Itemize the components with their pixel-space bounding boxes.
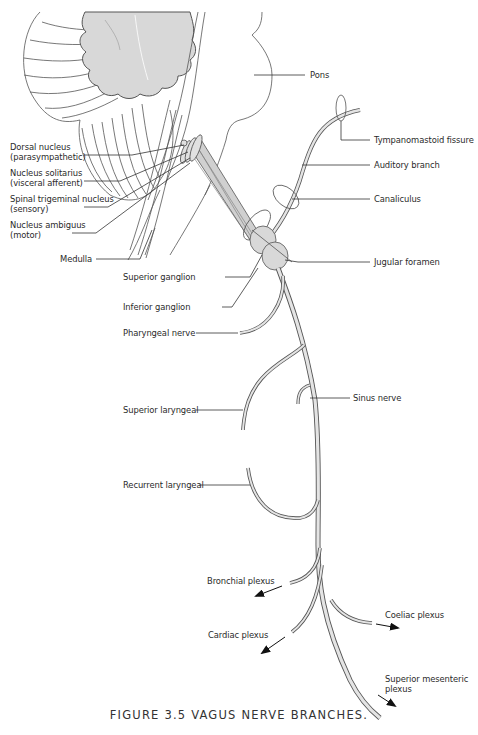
label-dorsal-nucleus: Dorsal nucleus (parasympathetic): [10, 142, 86, 162]
label-inferior-ganglion: Inferior ganglion: [123, 302, 190, 312]
label-superior-mesenteric-plexus: Superior mesenteric plexus: [385, 674, 468, 694]
label-superior-laryngeal: Superior laryngeal: [123, 405, 198, 415]
label-tympanomastoid-fissure: Tympanomastoid fissure: [374, 135, 474, 145]
figure-caption: FIGURE 3.5 VAGUS NERVE BRANCHES.: [0, 708, 478, 722]
vagus-nerve-diagram: [0, 0, 478, 735]
leader-lines: [72, 75, 370, 485]
label-recurrent-laryngeal: Recurrent laryngeal: [123, 480, 204, 490]
label-cardiac-plexus: Cardiac plexus: [208, 630, 268, 640]
label-pons: Pons: [310, 70, 329, 80]
label-jugular-foramen: Jugular foramen: [374, 257, 440, 267]
label-nucleus-solitarius: Nucleus solitarius (visceral afferent): [10, 168, 83, 188]
label-pharyngeal-nerve: Pharyngeal nerve: [123, 328, 195, 338]
label-sinus-nerve: Sinus nerve: [353, 393, 401, 403]
label-spinal-trigeminal-nucleus: Spinal trigeminal nucleus (sensory): [10, 194, 114, 214]
label-superior-ganglion: Superior ganglion: [123, 272, 196, 282]
label-auditory-branch: Auditory branch: [374, 160, 440, 170]
label-canaliculus: Canaliculus: [374, 194, 421, 204]
label-medulla: Medulla: [60, 254, 92, 264]
vagus-trunk: [278, 268, 380, 718]
label-nucleus-ambiguus: Nucleus ambiguus (motor): [10, 220, 86, 240]
cerebellar-gray-matter: [80, 12, 196, 99]
nuclei-fan: [178, 133, 260, 241]
label-bronchial-plexus: Bronchial plexus: [207, 576, 274, 586]
label-coeliac-plexus: Coeliac plexus: [385, 610, 444, 620]
ganglia: [250, 226, 292, 270]
